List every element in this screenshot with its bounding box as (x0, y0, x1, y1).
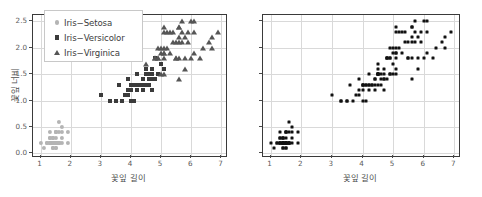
data-point (278, 131, 281, 134)
data-point (170, 40, 176, 45)
data-point (132, 83, 136, 87)
data-point (281, 147, 284, 150)
data-point (376, 67, 379, 70)
data-point (410, 78, 413, 81)
data-point (352, 99, 355, 102)
data-point (47, 130, 51, 134)
x-tick-mark (423, 155, 424, 158)
x-tick-label: 2 (67, 159, 72, 168)
y-tick-mark (259, 20, 262, 21)
data-point (150, 72, 154, 76)
data-point (410, 25, 413, 28)
y-tick-mark (259, 73, 262, 74)
x-tick-mark (100, 155, 101, 158)
data-point (114, 99, 118, 103)
gridline-vertical (191, 15, 192, 156)
data-point (155, 45, 161, 50)
data-point (422, 57, 425, 60)
gridline-vertical (161, 15, 162, 156)
data-point (297, 131, 300, 134)
data-point (150, 67, 154, 71)
data-point (291, 136, 294, 139)
x-tick-label: 4 (359, 159, 364, 168)
data-point (144, 72, 148, 76)
data-point (444, 46, 447, 49)
right-panel: 1234567 꽃잎 길이 (241, 0, 482, 197)
gridline-horizontal (263, 48, 459, 49)
data-point (392, 52, 395, 55)
data-point (159, 62, 163, 66)
data-point (386, 57, 389, 60)
data-point (38, 141, 42, 145)
data-point (99, 93, 103, 97)
legend-item-virginica: Iris−Virginica (50, 45, 137, 60)
data-point (416, 36, 419, 39)
data-point (373, 83, 376, 86)
data-point (410, 57, 413, 60)
data-point (135, 88, 139, 92)
legend-label-setosa: Iris−Setosa (64, 18, 112, 28)
data-point (410, 41, 413, 44)
gridline-vertical (41, 15, 42, 156)
x-tick-label: 3 (98, 159, 103, 168)
data-point (450, 30, 453, 33)
x-tick-label: 1 (267, 159, 272, 168)
data-point (395, 67, 398, 70)
data-point (153, 77, 157, 81)
gridline-vertical (424, 15, 425, 156)
data-point (379, 83, 382, 86)
data-point (355, 94, 358, 97)
data-point (188, 56, 194, 61)
data-point (340, 99, 343, 102)
y-tick-label: 2.0 (16, 42, 27, 51)
data-point (117, 83, 121, 87)
data-point (147, 77, 151, 81)
data-point (150, 88, 154, 92)
x-tick-mark (300, 155, 301, 158)
x-tick-label: 2 (298, 159, 303, 168)
data-point (330, 94, 333, 97)
y-tick-mark (29, 20, 32, 21)
data-point (358, 94, 361, 97)
data-point (161, 72, 167, 77)
data-point (60, 125, 64, 129)
x-tick-label: 5 (390, 159, 395, 168)
x-tick-mark (392, 155, 393, 158)
x-tick-mark (130, 155, 131, 158)
right-plot-area (262, 14, 460, 157)
x-tick-mark (40, 155, 41, 158)
data-point (358, 78, 361, 81)
y-tick-label: 2.5 (16, 16, 27, 25)
data-point (413, 30, 416, 33)
data-point (141, 77, 145, 81)
gridline-horizontal (263, 74, 459, 75)
x-tick-label: 1 (37, 159, 42, 168)
data-point (176, 40, 182, 45)
data-point (407, 57, 410, 60)
data-point (349, 83, 352, 86)
data-point (392, 46, 395, 49)
data-point (413, 41, 416, 44)
y-tick-label: 0.5 (16, 121, 27, 130)
data-point (138, 83, 142, 87)
data-point (425, 52, 428, 55)
data-point (373, 78, 376, 81)
data-point (389, 57, 392, 60)
data-point (410, 36, 413, 39)
data-point (370, 83, 373, 86)
data-point (120, 99, 124, 103)
data-point (152, 56, 158, 61)
data-point (182, 66, 188, 71)
data-point (132, 99, 136, 103)
data-point (398, 30, 401, 33)
x-tick-mark (453, 155, 454, 158)
y-tick-mark (29, 100, 32, 101)
data-point (284, 147, 287, 150)
data-point (57, 120, 61, 124)
x-tick-label: 7 (451, 159, 456, 168)
data-point (191, 29, 197, 34)
data-point (147, 83, 151, 87)
data-point (395, 25, 398, 28)
gridline-vertical (221, 15, 222, 156)
iris-scatter-figure: 12345670.00.51.01.52.02.5 꽃잎 너비 꽃잎 길이 Ir… (0, 0, 482, 197)
